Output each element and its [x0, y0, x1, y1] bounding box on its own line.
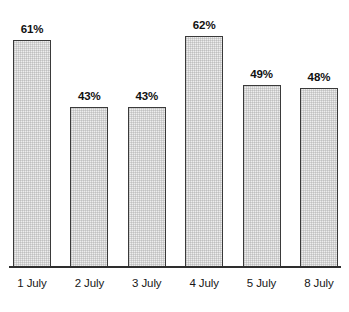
- x-axis-labels: 1 July 2 July 3 July 4 July 5 July 8 Jul…: [9, 277, 342, 290]
- bar-slot-3-july: 43%: [127, 6, 167, 268]
- bar-rect[interactable]: [185, 36, 223, 268]
- x-tick-label: 4 July: [184, 277, 224, 290]
- bar-value-label: 48%: [308, 72, 331, 84]
- plot-area: 61% 43% 43% 62% 49% 48%: [9, 6, 342, 268]
- bar-rect[interactable]: [70, 107, 108, 268]
- x-tick-label: 8 July: [299, 277, 339, 290]
- x-tick-label: 2 July: [69, 277, 109, 290]
- bar-rect[interactable]: [300, 88, 338, 268]
- bar-slot-1-july: 61%: [12, 6, 52, 268]
- x-tick-label: 3 July: [127, 277, 167, 290]
- bar-value-label: 49%: [250, 69, 273, 81]
- x-axis-baseline: [9, 266, 341, 268]
- bar-rect[interactable]: [128, 107, 166, 268]
- bar-slot-4-july: 62%: [184, 6, 224, 268]
- bar-value-label: 43%: [135, 91, 158, 103]
- bar-rect[interactable]: [243, 85, 281, 268]
- x-tick-label: 5 July: [242, 277, 282, 290]
- bar-slot-2-july: 43%: [69, 6, 109, 268]
- bar-value-label: 62%: [193, 20, 216, 32]
- x-tick-label: 1 July: [12, 277, 52, 290]
- bar-value-label: 43%: [78, 91, 101, 103]
- bar-rect[interactable]: [13, 40, 51, 268]
- bar-value-label: 61%: [21, 24, 44, 36]
- bar-chart: 61% 43% 43% 62% 49% 48%: [0, 0, 349, 312]
- bars-container: 61% 43% 43% 62% 49% 48%: [9, 6, 342, 268]
- bar-slot-5-july: 49%: [242, 6, 282, 268]
- bar-slot-8-july: 48%: [299, 6, 339, 268]
